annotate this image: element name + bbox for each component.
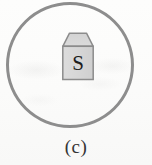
carton-icon [61,31,95,81]
carton-body [63,46,93,79]
figure-container: S (c) [0,0,152,165]
carton-top-flap [63,33,93,46]
figure-caption: (c) [0,136,152,158]
